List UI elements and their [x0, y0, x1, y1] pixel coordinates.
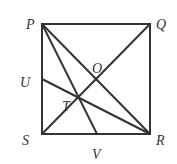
segment-pv: [42, 24, 97, 134]
label-t: T: [62, 99, 71, 114]
square-diagram: P Q R S U V O T: [0, 0, 177, 164]
label-p: P: [25, 17, 35, 32]
label-q: Q: [156, 17, 166, 32]
label-o: O: [92, 61, 102, 76]
segment-ur: [42, 79, 150, 134]
label-u: U: [20, 75, 31, 90]
label-r: R: [155, 133, 165, 148]
label-s: S: [22, 133, 29, 148]
label-v: V: [92, 147, 102, 162]
